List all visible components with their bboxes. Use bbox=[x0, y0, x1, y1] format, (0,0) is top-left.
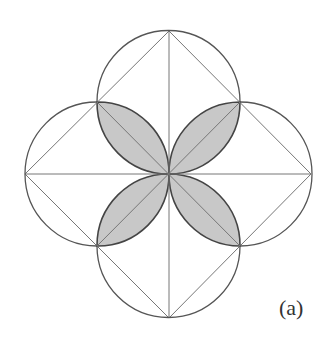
construction-lines bbox=[25, 31, 311, 318]
figure-label: (a) bbox=[279, 295, 303, 321]
geometry-diagram bbox=[0, 0, 333, 340]
